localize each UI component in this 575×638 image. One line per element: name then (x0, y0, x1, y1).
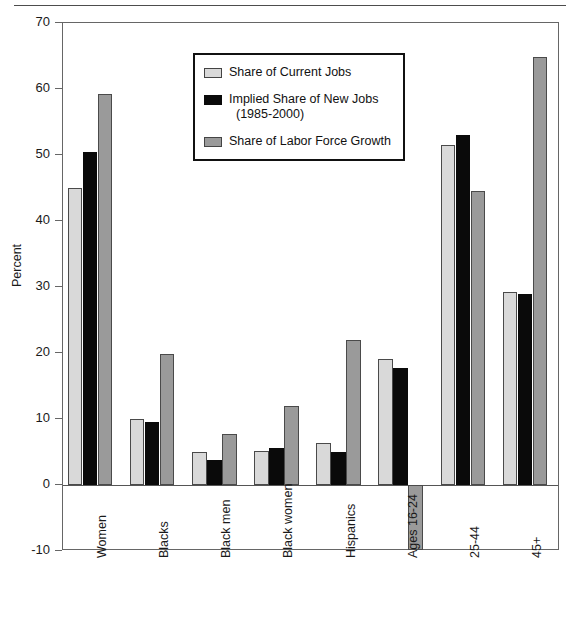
bar (378, 359, 393, 485)
legend-label-new-jobs-line1: Implied Share of New Jobs (229, 92, 378, 106)
chart-legend: Share of Current Jobs Implied Share of N… (193, 53, 405, 161)
y-tick-label: 70 (36, 13, 50, 30)
y-tick-mark (55, 484, 62, 485)
y-tick-mark (55, 220, 62, 221)
legend-entry-labor-force-growth: Share of Labor Force Growth (204, 134, 393, 149)
y-axis-title: Percent (10, 244, 24, 287)
y-tick-label: 40 (36, 211, 50, 228)
chart-figure: -10010203040506070 Percent WomenBlacksBl… (0, 0, 575, 638)
bar (393, 368, 408, 485)
x-axis-label: Black men (219, 500, 233, 558)
y-tick-label: 20 (36, 343, 50, 360)
y-tick-mark (55, 22, 62, 23)
legend-label-labor-force-growth: Share of Labor Force Growth (229, 134, 391, 149)
legend-label-new-jobs-line2: (1985-2000) (229, 107, 378, 122)
bar (316, 443, 331, 485)
bar-group (130, 23, 175, 549)
y-tick-mark (55, 418, 62, 419)
x-axis-label: Ages 16-24 (406, 494, 420, 558)
y-tick-label: 0 (43, 475, 50, 492)
bar (269, 448, 284, 485)
bar (441, 145, 456, 485)
x-axis-label: 25-44 (468, 526, 482, 558)
bar-group (441, 23, 486, 549)
bar (471, 191, 486, 485)
bar (192, 452, 207, 485)
legend-swatch-icon-labor-force-growth (204, 137, 222, 147)
legend-label-current-jobs: Share of Current Jobs (229, 65, 351, 80)
x-axis-label: Blacks (157, 521, 171, 558)
bar (533, 57, 548, 485)
bar (284, 406, 299, 485)
y-tick-label: 30 (36, 277, 50, 294)
x-axis-label: 45+ (530, 537, 544, 558)
y-tick-label: 60 (36, 79, 50, 96)
x-axis-label: Black women (281, 484, 295, 558)
legend-swatch-icon-new-jobs (204, 95, 222, 105)
x-axis-label: Women (95, 515, 109, 558)
y-tick-mark (55, 352, 62, 353)
legend-entry-current-jobs: Share of Current Jobs (204, 65, 393, 80)
bar (503, 292, 518, 485)
bar (518, 294, 533, 485)
bar (456, 135, 471, 485)
bar (145, 422, 160, 485)
bar (83, 152, 98, 485)
legend-swatch-icon-current-jobs (204, 68, 222, 78)
bar (130, 419, 145, 485)
x-axis-label: Hispanics (344, 504, 358, 558)
legend-entry-new-jobs: Implied Share of New Jobs(1985-2000) (204, 92, 393, 122)
bar (331, 452, 346, 485)
bar (207, 460, 222, 485)
bar (346, 340, 361, 485)
y-tick-label: 10 (36, 409, 50, 426)
bar-group (503, 23, 548, 549)
y-tick-mark (55, 154, 62, 155)
y-tick-mark (55, 286, 62, 287)
y-tick-label: 50 (36, 145, 50, 162)
y-tick-mark (55, 550, 62, 551)
y-tick-mark (55, 88, 62, 89)
legend-label-new-jobs: Implied Share of New Jobs(1985-2000) (229, 92, 378, 122)
y-axis: -10010203040506070 Percent (0, 0, 62, 638)
top-divider-rule (14, 5, 566, 6)
bar (254, 451, 269, 485)
bar-group (68, 23, 113, 549)
y-tick-label: -10 (31, 541, 50, 558)
bar (222, 434, 237, 485)
bar (160, 354, 175, 485)
bar (98, 94, 113, 485)
bar (68, 188, 83, 485)
